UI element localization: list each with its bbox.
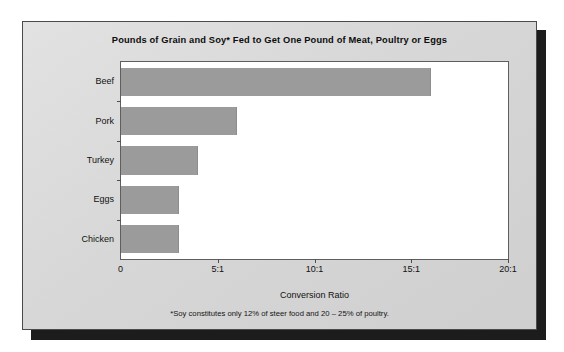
y-axis-tick-mark: [117, 101, 121, 102]
x-axis-tick-mark: [315, 259, 316, 263]
bar-chicken: Chicken: [121, 225, 179, 253]
y-axis-tick-label-beef: Beef: [24, 77, 121, 86]
plot-inner: BeefPorkTurkeyEggsChicken05:110:115:120:…: [121, 62, 508, 259]
x-axis-tick-mark: [508, 259, 509, 263]
bar-beef: Beef: [121, 68, 431, 96]
y-axis-tick-label-eggs: Eggs: [24, 195, 121, 204]
y-axis-tick-mark: [117, 180, 121, 181]
x-axis-tick-label-5-1: 5:1: [211, 264, 224, 274]
x-axis-tick-mark: [218, 259, 219, 263]
y-axis-tick-label-pork: Pork: [24, 117, 121, 126]
chart-title: Pounds of Grain and Soy* Fed to Get One …: [23, 35, 536, 45]
chart-card: Pounds of Grain and Soy* Fed to Get One …: [22, 21, 537, 330]
y-axis-tick-label-chicken: Chicken: [24, 235, 121, 244]
bar-fill: [121, 107, 237, 135]
y-axis-tick-label-turkey: Turkey: [24, 156, 121, 165]
x-axis-tick-label-20-1: 20:1: [499, 264, 517, 274]
y-axis-tick-mark: [117, 141, 121, 142]
bar-fill: [121, 146, 198, 174]
x-axis-label: Conversion Ratio: [120, 290, 509, 300]
x-axis-tick-label-0: 0: [118, 264, 123, 274]
bar-fill: [121, 225, 179, 253]
plot-area: BeefPorkTurkeyEggsChicken05:110:115:120:…: [120, 61, 509, 260]
bar-fill: [121, 186, 179, 214]
x-axis-tick-label-15-1: 15:1: [402, 264, 420, 274]
y-axis-tick-mark: [117, 220, 121, 221]
x-axis-tick-mark: [411, 259, 412, 263]
x-axis-tick-label-10-1: 10:1: [306, 264, 324, 274]
bar-fill: [121, 68, 431, 96]
bar-eggs: Eggs: [121, 186, 179, 214]
bar-pork: Pork: [121, 107, 237, 135]
chart-footnote: *Soy constitutes only 12% of steer food …: [23, 309, 536, 318]
bar-turkey: Turkey: [121, 146, 198, 174]
